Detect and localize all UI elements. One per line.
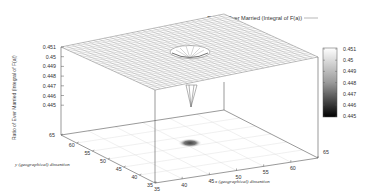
x-tick-label: 40 [181,182,187,188]
y-tick-label: 55 [84,150,90,156]
x-tick-label: 35 [154,186,160,192]
z-tick-label: 0.445 [43,102,56,108]
surface-dip-spike [186,85,197,107]
x-tick-label: 45 [208,178,214,184]
y-tick-label: 50 [100,158,106,164]
colorbar-tick-label: 0.448 [343,80,356,86]
z-tick-label: 0.45 [46,54,56,60]
x-axis: 35404550556065 [154,149,329,192]
colorbar-tick-label: 0.445 [343,113,356,119]
z-tick-label: 0.446 [43,93,56,99]
colorbar-tick-label: 0.449 [343,68,356,74]
y-axis: 65605550454035 [49,132,157,188]
y-tick-label: 60 [69,142,75,148]
y-tick-label: 65 [49,132,55,138]
z-tick-label: 0.448 [43,73,56,79]
floor-heatmap-dip [178,139,202,148]
colorbar-tick-label: 0.45 [343,57,353,63]
colorbar: 0.4510.450.4490.4480.4470.4460.445 [323,46,356,119]
y-tick-label: 45 [116,166,122,172]
z-tick-label: 0.447 [43,83,56,89]
colorbar-tick-label: 0.447 [343,91,356,97]
z-axis-title: Ratio of Ever Married (Integral of F(a)) [11,55,17,140]
x-tick-label: 60 [290,165,296,171]
y-axis-title: y (geographical) dimention [14,162,70,167]
z-tick-label: 0.451 [43,44,56,50]
surface-dip-crater [170,46,210,59]
x-tick-label: 65 [323,149,329,155]
z-tick-label: 0.449 [43,63,56,69]
y-tick-label: 35 [147,182,153,188]
y-tick-label: 40 [131,174,137,180]
colorbar-tick-label: 0.446 [343,102,356,108]
colorbar-gradient [323,48,337,117]
surface-chart: Ratio of Ever Married (Integral of F(a))… [0,0,373,196]
colorbar-tick-label: 0.451 [343,46,356,52]
x-axis-title: x (geographical) dimention [214,179,270,184]
x-tick-label: 55 [263,169,269,175]
